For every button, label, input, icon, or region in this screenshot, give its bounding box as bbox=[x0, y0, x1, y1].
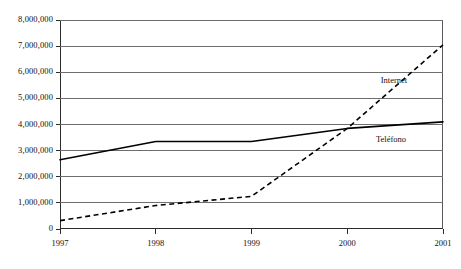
series-label-telfono: Teléfono bbox=[376, 135, 406, 144]
gridline bbox=[60, 202, 443, 203]
line-chart: 01,000,0002,000,0003,000,0004,000,0005,0… bbox=[0, 0, 461, 269]
y-axis-tick-mark bbox=[56, 20, 60, 21]
y-axis-tick-mark bbox=[56, 124, 60, 125]
y-axis-tick-label: 2,000,000 bbox=[18, 172, 53, 181]
series-label-internet: Internet bbox=[381, 76, 407, 85]
x-axis-tick-label: 1997 bbox=[35, 239, 85, 248]
y-axis-tick-label: 3,000,000 bbox=[18, 146, 53, 155]
x-axis-tick-mark bbox=[443, 229, 444, 234]
y-axis-tick-label: 5,000,000 bbox=[18, 93, 53, 102]
y-axis-tick-label: 1,000,000 bbox=[18, 198, 53, 207]
y-axis-tick-label: 4,000,000 bbox=[18, 120, 53, 129]
y-axis-tick-mark bbox=[56, 46, 60, 47]
x-axis-tick-mark bbox=[347, 229, 348, 234]
x-axis-tick-label: 2001 bbox=[418, 239, 461, 248]
gridline bbox=[60, 98, 443, 99]
x-axis-tick-mark bbox=[251, 229, 252, 234]
y-axis-tick-label: 8,000,000 bbox=[18, 15, 53, 24]
gridline bbox=[60, 150, 443, 151]
gridline bbox=[60, 46, 443, 47]
gridline bbox=[60, 20, 443, 21]
y-axis-tick-mark bbox=[56, 72, 60, 73]
y-axis-tick-mark bbox=[56, 176, 60, 177]
x-axis-tick-label: 1999 bbox=[227, 239, 277, 248]
x-axis-tick-mark bbox=[155, 229, 156, 234]
x-axis-tick-label: 1998 bbox=[131, 239, 181, 248]
x-axis-tick-label: 2000 bbox=[322, 239, 372, 248]
x-axis-tick-mark bbox=[60, 229, 61, 234]
y-axis-tick-label: 6,000,000 bbox=[18, 67, 53, 76]
y-axis-tick-label: 7,000,000 bbox=[18, 41, 53, 50]
y-axis-tick-mark bbox=[56, 202, 60, 203]
y-axis-tick-label: 0 bbox=[49, 224, 53, 233]
gridline bbox=[60, 72, 443, 73]
gridline bbox=[60, 176, 443, 177]
y-axis-tick-mark bbox=[56, 98, 60, 99]
y-axis-tick-mark bbox=[56, 150, 60, 151]
gridline bbox=[60, 124, 443, 125]
